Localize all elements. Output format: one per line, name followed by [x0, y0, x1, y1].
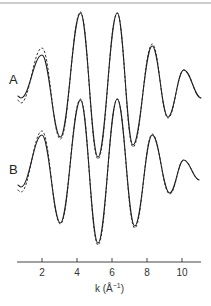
x-axis-ticks: 246810	[39, 258, 188, 278]
panel-label-b: B	[9, 162, 18, 177]
curve-b-solid	[18, 99, 200, 243]
x-tick-label: 4	[74, 267, 80, 278]
curve-a-dashed	[18, 12, 202, 159]
x-tick-label: 2	[39, 267, 45, 278]
x-axis-label: k (Å−1)	[95, 282, 124, 294]
x-axis-label-sup: −1	[113, 282, 121, 289]
plot-area	[18, 12, 202, 245]
x-axis-label-close: )	[121, 283, 124, 294]
panel-label-a: A	[9, 72, 18, 87]
x-tick-label: 8	[144, 267, 150, 278]
exafs-chart: A B 246810 k (Å−1)	[0, 0, 211, 306]
x-axis-label-main: k (Å	[95, 282, 113, 294]
curve-a-solid	[18, 13, 202, 157]
x-tick-label: 10	[176, 267, 188, 278]
curve-b-dashed	[18, 99, 200, 245]
x-tick-label: 6	[109, 267, 115, 278]
